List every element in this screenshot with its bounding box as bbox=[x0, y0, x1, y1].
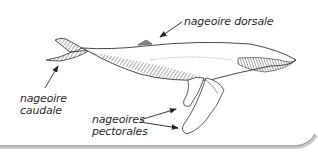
label-caudal-fin: nageoire caudale bbox=[20, 93, 67, 117]
dorsal-fin bbox=[138, 40, 152, 45]
label-dorsal-fin: nageoire dorsale bbox=[184, 16, 273, 28]
whale-body bbox=[82, 42, 296, 80]
dorsal-arrow bbox=[160, 22, 182, 37]
label-caudal-line2: caudale bbox=[20, 105, 67, 117]
label-pectoral-fins: nageoires pectorales bbox=[92, 114, 148, 138]
frame-border bbox=[0, 135, 316, 147]
pectoral-fins bbox=[182, 77, 224, 134]
tail-fluke bbox=[46, 38, 90, 61]
whale-diagram: nageoire dorsale nageoire caudale nageoi… bbox=[0, 0, 318, 161]
caudal-arrow bbox=[45, 66, 58, 88]
label-pectoral-line2: pectorales bbox=[92, 126, 148, 138]
